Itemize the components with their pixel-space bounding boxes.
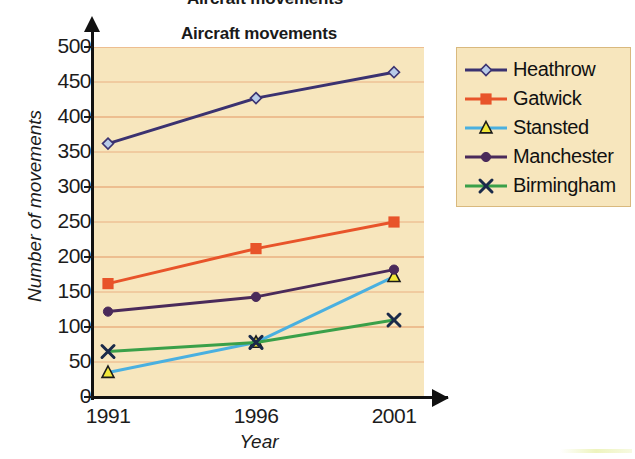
legend-item-manchester: Manchester <box>457 142 630 171</box>
legend-item-heathrow: Heathrow <box>457 55 630 84</box>
legend-sample <box>463 176 509 196</box>
y-tick-mark <box>84 256 93 258</box>
y-tick-mark <box>84 186 93 188</box>
diamond-marker-icon <box>481 64 492 75</box>
series-heathrow <box>103 67 400 149</box>
y-tick-mark <box>84 326 93 328</box>
scan-artifact <box>560 449 632 453</box>
legend-swatch-icon <box>463 147 509 167</box>
legend-label: Heathrow <box>513 58 595 81</box>
legend-sample <box>463 147 509 167</box>
legend-sample <box>463 60 509 80</box>
series-line <box>108 72 394 143</box>
legend-item-birmingham: Birmingham <box>457 171 630 200</box>
legend-item-gatwick: Gatwick <box>457 84 630 113</box>
diamond-marker-icon <box>389 67 400 78</box>
diamond-marker-icon <box>103 138 114 149</box>
legend-label: Gatwick <box>513 87 581 110</box>
plot-svg <box>94 47 424 397</box>
legend-label: Stansted <box>513 116 589 139</box>
x-tick-label: 2001 <box>349 404 439 428</box>
clipped-title-top: Aircraft movements <box>0 0 530 9</box>
chart-title: Aircraft movements <box>94 24 424 44</box>
y-axis-arrow-icon <box>84 16 100 32</box>
x-tick-label: 1991 <box>63 404 153 428</box>
circle-marker-icon <box>389 265 398 274</box>
legend: HeathrowGatwickStanstedManchesterBirming… <box>456 47 631 207</box>
circle-marker-icon <box>103 307 112 316</box>
square-marker-icon <box>103 279 113 289</box>
y-axis-title: Number of movements <box>24 86 46 326</box>
circle-marker-icon <box>481 152 490 161</box>
circle-marker-icon <box>251 292 260 301</box>
square-marker-icon <box>389 217 399 227</box>
y-tick-mark <box>84 116 93 118</box>
legend-item-stansted: Stansted <box>457 113 630 142</box>
chart-figure: Aircraft movements Aircraft movements 05… <box>0 0 635 459</box>
legend-swatch-icon <box>463 176 509 196</box>
y-tick-mark <box>84 46 93 48</box>
legend-swatch-icon <box>463 118 509 138</box>
legend-sample <box>463 118 509 138</box>
x-axis-title: Year <box>94 431 424 453</box>
legend-sample <box>463 89 509 109</box>
square-marker-icon <box>251 244 261 254</box>
plot-area <box>94 47 424 397</box>
y-tick-mark <box>84 396 93 398</box>
y-tick-label: 500 <box>31 34 91 58</box>
square-marker-icon <box>481 94 491 104</box>
legend-swatch-icon <box>463 89 509 109</box>
series-stansted <box>102 270 400 377</box>
legend-swatch-icon <box>463 60 509 80</box>
legend-label: Birmingham <box>513 174 616 197</box>
y-axis-line <box>91 30 94 400</box>
series-line <box>108 277 394 373</box>
diamond-marker-icon <box>251 93 262 104</box>
series-line <box>108 270 394 312</box>
series-birmingham <box>102 314 400 358</box>
legend-label: Manchester <box>513 145 614 168</box>
x-tick-label: 1996 <box>211 404 301 428</box>
y-tick-label: 50 <box>31 349 91 373</box>
x-axis-line <box>91 396 448 399</box>
